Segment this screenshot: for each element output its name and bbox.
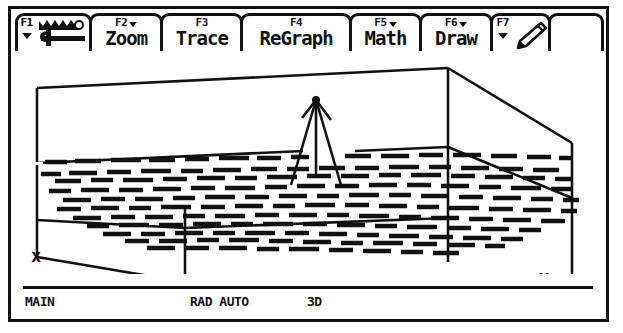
chevron-down-icon[interactable] [459,22,467,27]
toolbar-tab-label-zoom: Zoom [105,28,147,49]
toolbar-tab-f4-regraph[interactable]: F4 ReGraph [240,13,351,51]
surface-mesh [41,155,579,253]
status-bar-divider [23,286,593,289]
toolbar-tab-label-trace: Trace [176,28,228,49]
f1-key-column: F1 [18,16,35,51]
toolbar-tab-label-draw: Draw [435,28,477,49]
f7-key-column: F7 [493,16,513,51]
status-bar: MAIN RAD AUTO 3D [15,286,601,316]
toolbar-tab-f2-zoom[interactable]: F2 Zoom [89,13,163,51]
status-graph-mode: 3D [307,294,322,309]
chevron-down-icon[interactable] [22,33,32,39]
surface-plot-3d: x y [15,50,601,274]
f1-icon-column [35,16,89,51]
toolbar-tab-label-regraph: ReGraph [260,28,333,49]
surface-spike [291,100,341,185]
graph-canvas[interactable]: x y [15,50,601,274]
y-axis-label: y [539,267,549,274]
toolbar-tab-f1-tools[interactable]: F1 [15,13,92,51]
calculator-screen: F1 F2 Zoom [8,6,609,322]
f1-key-label: F1 [20,17,32,28]
f7-icon-column [513,16,549,51]
toolbar-tab-f6-draw[interactable]: F6 Draw [419,13,493,51]
toolbar-tab-f3-trace[interactable]: F3 Trace [160,13,243,51]
status-angle-mode: RAD AUTO [190,294,249,309]
spike-apex [312,96,320,104]
toolbar-tab-f7-pen[interactable]: F7 [490,13,552,51]
chevron-down-icon[interactable] [389,22,397,27]
f7-key-label: F7 [497,17,509,28]
toolbar-tab-empty[interactable] [548,13,604,51]
wrench-tools-icon [35,17,91,51]
pencil-icon [514,21,548,49]
toolbar-tab-label-math: Math [365,28,407,49]
status-folder: MAIN [25,294,54,309]
x-axis-label: x [31,246,41,266]
toolbar-tab-f5-math[interactable]: F5 Math [349,13,423,51]
toolbar: F1 F2 Zoom [15,13,601,51]
z-tick-left [34,162,43,165]
chevron-down-icon[interactable] [129,22,137,27]
chevron-down-icon[interactable] [498,33,508,39]
